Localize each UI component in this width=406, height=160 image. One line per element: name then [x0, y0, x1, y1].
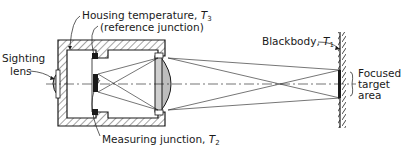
measuring-junction: [93, 74, 98, 92]
label-measuring-junction: Measuring junction, T2: [102, 133, 220, 147]
label-area: area: [358, 89, 381, 101]
focused-target-area: [338, 70, 341, 98]
housing: [58, 40, 165, 126]
label-blackbody: Blackbody, T1: [262, 35, 334, 49]
radiation-pyrometer-diagram: Housing temperature, T3 (reference junct…: [0, 0, 406, 160]
label-sighting: Sighting: [2, 52, 45, 64]
label-reference-junction: (reference junction): [100, 21, 204, 33]
label-lens: lens: [10, 65, 32, 77]
blackbody-wall: [338, 32, 346, 128]
